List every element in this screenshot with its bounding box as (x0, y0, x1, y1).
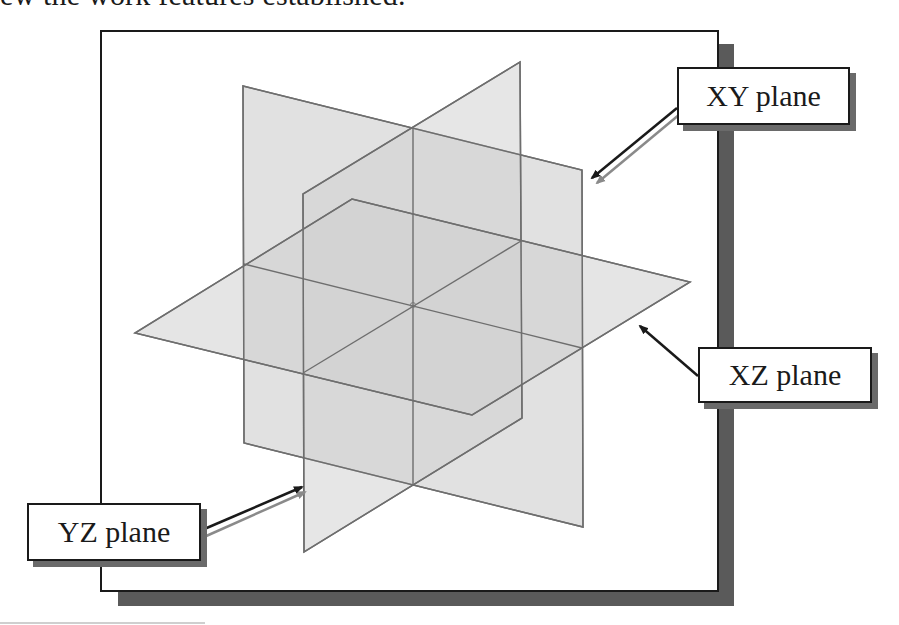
xz-plane-label: XZ plane (698, 347, 872, 403)
xy-plane-label: XY plane (677, 67, 850, 125)
bottom-divider (0, 622, 205, 624)
xz-plane-label-text: XZ plane (729, 358, 841, 392)
yz-plane-label: YZ plane (27, 503, 201, 561)
yz-plane-label-text: YZ plane (58, 515, 170, 549)
xy-plane-label-text: XY plane (706, 79, 821, 113)
